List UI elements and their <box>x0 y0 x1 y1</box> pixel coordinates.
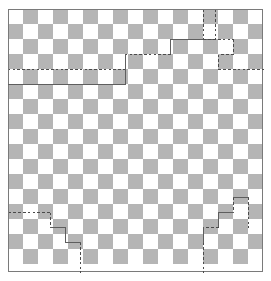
board-cell <box>113 159 128 174</box>
board-cell <box>143 129 158 144</box>
board-cell <box>128 54 143 69</box>
board-cell <box>218 24 233 39</box>
board-cell <box>158 159 173 174</box>
board-cell <box>188 54 203 69</box>
board-cell <box>128 159 143 174</box>
board-cell <box>83 174 98 189</box>
board-cell <box>98 144 113 159</box>
board-cell <box>218 129 233 144</box>
board-cell <box>248 114 263 129</box>
board-cell <box>98 9 113 24</box>
board-cell <box>218 234 233 249</box>
board-cell <box>98 219 113 234</box>
board-cell <box>188 204 203 219</box>
board-cell <box>8 39 23 54</box>
board-cell <box>173 234 188 249</box>
board-cell <box>188 219 203 234</box>
board-cell <box>158 69 173 84</box>
board-cell <box>248 39 263 54</box>
board-cell <box>8 84 23 99</box>
board-cell <box>173 39 188 54</box>
board-cell <box>38 114 53 129</box>
board-cell <box>143 204 158 219</box>
board-cell <box>8 189 23 204</box>
board-cell <box>158 249 173 264</box>
board-cell <box>158 204 173 219</box>
board-cell <box>98 24 113 39</box>
board-cell <box>83 189 98 204</box>
board-cell <box>113 144 128 159</box>
board-cell <box>68 99 83 114</box>
board-cell <box>188 24 203 39</box>
board-cell <box>248 159 263 174</box>
board-cell <box>113 84 128 99</box>
board-cell <box>53 249 68 264</box>
board-cell <box>143 24 158 39</box>
board-cell <box>113 174 128 189</box>
board-cell <box>233 99 248 114</box>
board-cell <box>143 9 158 24</box>
board-cell <box>68 69 83 84</box>
board-cell <box>128 174 143 189</box>
board-cell <box>248 9 263 24</box>
board-cell <box>113 39 128 54</box>
board-cell <box>8 54 23 69</box>
board-cell <box>248 54 263 69</box>
board-cell <box>203 234 218 249</box>
board-cell <box>218 54 233 69</box>
board-cell <box>68 234 83 249</box>
board-cell <box>248 144 263 159</box>
board-cell <box>113 189 128 204</box>
board-cell <box>173 69 188 84</box>
board-cell <box>8 114 23 129</box>
board-cell <box>83 129 98 144</box>
board-cell <box>248 204 263 219</box>
board-cell <box>128 39 143 54</box>
board-cell <box>233 174 248 189</box>
board-cell <box>38 204 53 219</box>
board-cell <box>203 39 218 54</box>
board-cell <box>68 174 83 189</box>
board-cell <box>113 99 128 114</box>
board-cell <box>203 249 218 264</box>
board-cell <box>158 174 173 189</box>
board-cell <box>233 189 248 204</box>
board-cell <box>173 189 188 204</box>
board-cell <box>128 234 143 249</box>
board-cell <box>38 129 53 144</box>
board-cell <box>233 114 248 129</box>
board-cell <box>98 129 113 144</box>
board-cell <box>113 204 128 219</box>
board-cell <box>128 9 143 24</box>
board-cell <box>38 24 53 39</box>
board-cell <box>8 204 23 219</box>
board-cell <box>8 159 23 174</box>
board-cell <box>8 234 23 249</box>
board-cell <box>143 174 158 189</box>
board-cell <box>173 159 188 174</box>
board-cell <box>53 129 68 144</box>
board-cell <box>53 144 68 159</box>
board-cell <box>23 144 38 159</box>
board-cell <box>188 129 203 144</box>
board-cell <box>218 84 233 99</box>
board-cell <box>23 204 38 219</box>
board-cell <box>218 99 233 114</box>
board-cell <box>68 84 83 99</box>
board-cell <box>233 9 248 24</box>
board-cell <box>113 249 128 264</box>
board-cell <box>203 84 218 99</box>
board-cell <box>143 189 158 204</box>
board-cell <box>38 99 53 114</box>
board-cell <box>188 144 203 159</box>
board-cell <box>98 99 113 114</box>
board-cell <box>68 9 83 24</box>
board-cell <box>173 84 188 99</box>
board-cell <box>53 174 68 189</box>
board-cell <box>218 174 233 189</box>
board-cell <box>248 69 263 84</box>
checkerboard-canvas <box>0 0 271 281</box>
board-cell <box>53 54 68 69</box>
board-cell <box>158 24 173 39</box>
board-cell <box>83 114 98 129</box>
